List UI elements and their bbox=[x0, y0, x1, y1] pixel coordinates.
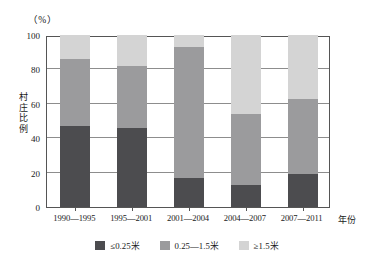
y-tick-label: 60 bbox=[14, 100, 40, 110]
bar-segment-≤0.25米 bbox=[60, 126, 90, 207]
y-tick-label: 20 bbox=[14, 169, 40, 179]
bar-1995—2001 bbox=[117, 35, 147, 207]
x-tick-mark bbox=[75, 207, 76, 211]
y-tick-label: 40 bbox=[14, 134, 40, 144]
x-tick-label: 1995—2001 bbox=[110, 213, 152, 223]
bar-segment-≥1.5米 bbox=[117, 35, 147, 66]
x-tick-mark bbox=[246, 207, 247, 211]
bar-segment-≥1.5米 bbox=[174, 35, 204, 47]
x-tick-mark bbox=[132, 207, 133, 211]
legend-item: ≥1.5米 bbox=[239, 239, 279, 252]
bar-segment-≤0.25米 bbox=[117, 128, 147, 207]
legend-swatch-icon bbox=[160, 241, 170, 250]
legend-label: ≤0.25米 bbox=[110, 239, 139, 252]
chart-legend: ≤0.25米0.25—1.5米≥1.5米 bbox=[0, 239, 374, 252]
bar-segment-≤0.25米 bbox=[174, 178, 204, 207]
bar-1990—1995 bbox=[60, 35, 90, 207]
legend-label: ≥1.5米 bbox=[254, 239, 279, 252]
bar-segment-≥1.5米 bbox=[60, 35, 90, 59]
bar-segment-≥1.5米 bbox=[231, 35, 261, 114]
bar-2004—2007 bbox=[231, 35, 261, 207]
x-tick-mark bbox=[189, 207, 190, 211]
x-tick-label: 1990—1995 bbox=[53, 213, 95, 223]
legend-label: 0.25—1.5米 bbox=[175, 239, 219, 252]
bar-segment-0.25—1.5米 bbox=[231, 114, 261, 185]
legend-swatch-icon bbox=[95, 241, 105, 250]
bars-layer bbox=[47, 37, 329, 207]
y-tick-label: 100 bbox=[14, 31, 40, 41]
x-tick-label: 2001—2004 bbox=[167, 213, 209, 223]
bar-segment-≤0.25米 bbox=[231, 185, 261, 207]
bar-segment-0.25—1.5米 bbox=[117, 66, 147, 128]
bar-2007—2011 bbox=[288, 35, 318, 207]
y-axis-unit-label: （%） bbox=[28, 12, 57, 26]
x-tick-mark bbox=[303, 207, 304, 211]
legend-item: ≤0.25米 bbox=[95, 239, 139, 252]
bar-2001—2004 bbox=[174, 35, 204, 207]
bar-segment-0.25—1.5米 bbox=[60, 59, 90, 126]
y-tick-label: 80 bbox=[14, 65, 40, 75]
x-axis-tick-labels: 1990—19951995—20012001—20042004—20072007… bbox=[0, 213, 374, 227]
bar-segment-0.25—1.5米 bbox=[174, 47, 204, 178]
y-tick-label: 0 bbox=[14, 203, 40, 213]
plot-area bbox=[46, 36, 330, 208]
x-tick-label: 2007—2011 bbox=[281, 213, 323, 223]
legend-item: 0.25—1.5米 bbox=[160, 239, 219, 252]
x-tick-label: 2004—2007 bbox=[224, 213, 266, 223]
stacked-bar-chart-figure: （%） 村庄比例 020406080100 1990—19951995—2001… bbox=[0, 0, 374, 267]
bar-segment-≤0.25米 bbox=[288, 174, 318, 207]
legend-swatch-icon bbox=[239, 241, 249, 250]
bar-segment-0.25—1.5米 bbox=[288, 99, 318, 175]
x-axis-title: 年份 bbox=[338, 213, 356, 226]
bar-segment-≥1.5米 bbox=[288, 35, 318, 99]
